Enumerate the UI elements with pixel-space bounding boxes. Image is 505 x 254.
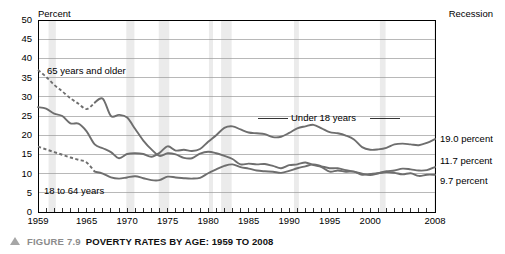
y-tick-label-10: 10 xyxy=(8,169,32,179)
y-tick-label-20: 20 xyxy=(8,130,32,140)
y-tick-label-15: 15 xyxy=(8,149,32,159)
gridline-group xyxy=(38,20,435,193)
end-label-under18: 19.0 percent xyxy=(440,134,493,144)
triangle-up-icon xyxy=(10,237,20,245)
caption-title: POVERTY RATES BY AGE: 1959 TO 2008 xyxy=(86,236,274,247)
x-tick-marks xyxy=(38,208,435,212)
x-tick-label-2000: 2000 xyxy=(350,216,390,226)
x-tick-label-1959: 1959 xyxy=(18,216,58,226)
y-tick-label-40: 40 xyxy=(8,53,32,63)
x-tick-label-1965: 1965 xyxy=(67,216,107,226)
x-tick-label-2008: 2008 xyxy=(415,216,455,226)
chart-plot-area: Percent Recession 50454035302520151050 1… xyxy=(0,0,505,226)
y-tick-label-5: 5 xyxy=(8,188,32,198)
y-tick-label-50: 50 xyxy=(8,15,32,25)
x-tick-label-1985: 1985 xyxy=(229,216,269,226)
figure-caption: FIGURE 7.9 POVERTY RATES BY AGE: 1959 TO… xyxy=(0,228,505,254)
y-axis-unit-label: Percent xyxy=(38,9,71,19)
y-tick-label-35: 35 xyxy=(8,73,32,83)
recession-legend-label: Recession xyxy=(449,9,493,19)
figure-container: Percent Recession 50454035302520151050 1… xyxy=(0,0,505,254)
x-tick-label-1980: 1980 xyxy=(188,216,228,226)
series-label-seniors: 65 years and older xyxy=(47,66,126,76)
x-tick-label-1975: 1975 xyxy=(148,216,188,226)
x-tick-label-1970: 1970 xyxy=(107,216,147,226)
series-dashed-18-to-64-years xyxy=(38,147,95,172)
y-tick-label-25: 25 xyxy=(8,111,32,121)
y-tick-label-30: 30 xyxy=(8,92,32,102)
series-label-under18: Under 18 years xyxy=(291,113,356,123)
x-tick-label-1995: 1995 xyxy=(310,216,350,226)
caption-figure-number: FIGURE 7.9 xyxy=(27,236,81,247)
x-tick-label-1990: 1990 xyxy=(269,216,309,226)
end-label-seniors: 9.7 percent xyxy=(440,176,488,186)
y-tick-label-45: 45 xyxy=(8,34,32,44)
end-label-adults: 11.7 percent xyxy=(440,156,492,166)
series-line-group xyxy=(38,70,435,181)
series-label-adults: 18 to 64 years xyxy=(44,186,104,196)
series-line-under-18-years xyxy=(38,107,435,158)
